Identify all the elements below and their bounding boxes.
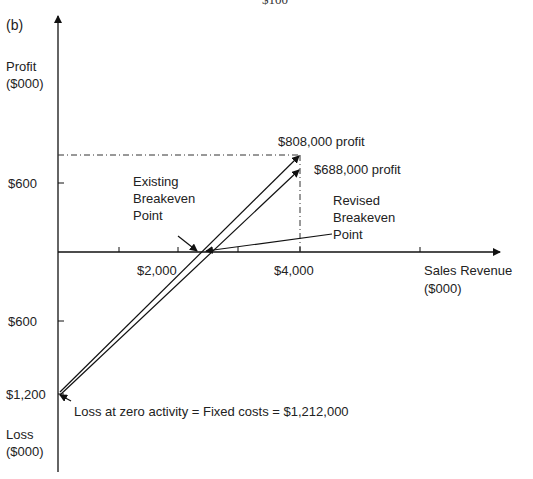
revised-breakeven-arrow xyxy=(206,234,332,251)
existing-breakeven-label-line1: Existing xyxy=(133,173,179,190)
existing-profit-label: $808,000 profit xyxy=(278,133,365,150)
revised-profit-label: $688,000 profit xyxy=(314,161,401,178)
existing-breakeven-arrow xyxy=(178,236,197,251)
existing-breakeven-label-line2: Breakeven xyxy=(133,190,195,207)
x-axis-label-line1: Sales Revenue xyxy=(424,262,512,279)
revised-breakeven-label-line3: Point xyxy=(333,226,363,243)
y-ticks xyxy=(58,183,64,394)
y-axis-loss-label-line2: ($000) xyxy=(6,443,44,460)
y-axis-loss-label-line1: Loss xyxy=(6,426,33,443)
y-tick-label-600-profit: $600 xyxy=(8,175,37,192)
x-ticks xyxy=(119,247,420,252)
x-tick-label-4000: $4,000 xyxy=(274,262,314,279)
loss-arrow xyxy=(60,395,71,401)
y-tick-label-600-loss: $600 xyxy=(8,313,37,330)
y-tick-label-1200-loss: $1,200 xyxy=(6,386,46,403)
x-tick-label-2000: $2,000 xyxy=(137,262,177,279)
y-axis-profit-label-line1: Profit xyxy=(6,58,36,75)
revised-breakeven-label-line2: Breakeven xyxy=(333,209,395,226)
x-axis-label-line2: ($000) xyxy=(424,280,462,297)
existing-breakeven-label-line3: Point xyxy=(133,207,163,224)
loss-at-zero-label: Loss at zero activity = Fixed costs = $1… xyxy=(74,403,349,420)
y-axis-profit-label-line2: ($000) xyxy=(6,75,44,92)
panel-label: (b) xyxy=(6,17,23,34)
revised-breakeven-label-line1: Revised xyxy=(333,192,380,209)
